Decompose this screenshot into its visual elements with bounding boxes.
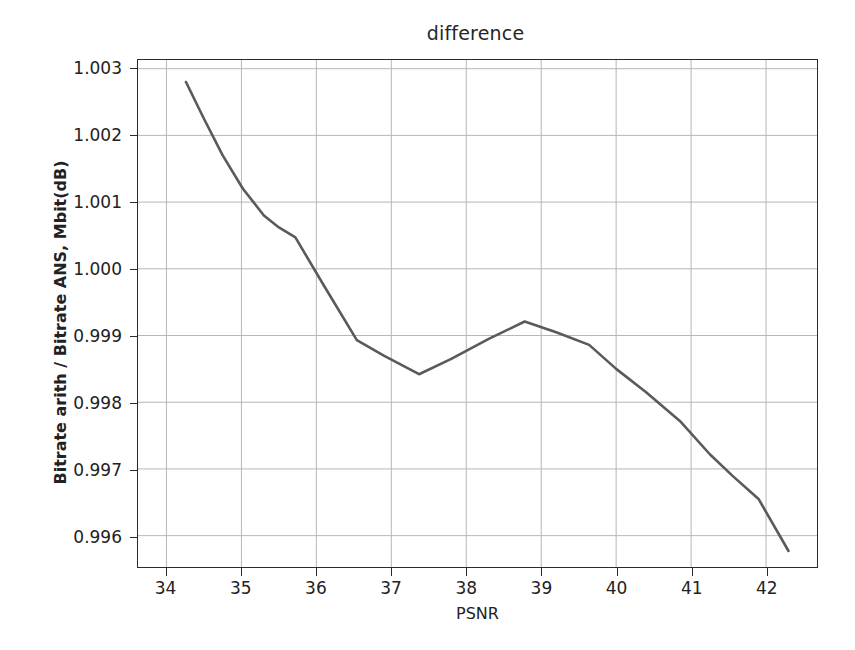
x-tick-mark	[241, 568, 242, 576]
y-tick-label: 0.997	[73, 460, 122, 480]
x-tick-label: 40	[606, 578, 628, 598]
x-tick-mark	[391, 568, 392, 576]
chart-figure: difference 0.9960.9970.9980.9991.0001.00…	[0, 0, 855, 650]
y-tick-label: 0.999	[73, 326, 122, 346]
x-axis-label: PSNR	[137, 604, 818, 623]
y-tick-label: 1.002	[73, 125, 122, 145]
x-tick-label: 42	[756, 578, 778, 598]
x-tick-mark	[692, 568, 693, 576]
y-tick-label: 0.998	[73, 393, 122, 413]
x-tick-mark	[166, 568, 167, 576]
y-tick-label: 1.000	[73, 259, 122, 279]
x-tick-mark	[767, 568, 768, 576]
x-tick-mark	[541, 568, 542, 576]
y-tick-label: 1.001	[73, 192, 122, 212]
x-tick-label: 37	[380, 578, 402, 598]
y-tick-label: 1.003	[73, 58, 122, 78]
data-line	[186, 82, 789, 551]
x-tick-mark	[316, 568, 317, 576]
x-tick-label: 41	[681, 578, 703, 598]
y-axis-label: Bitrate arith / Bitrate ANS, Mbit(dB)	[51, 113, 70, 533]
data-line-series	[138, 60, 817, 567]
x-tick-label: 38	[455, 578, 477, 598]
chart-title-text: difference	[427, 22, 525, 44]
x-tick-label: 39	[531, 578, 553, 598]
x-tick-label: 36	[305, 578, 327, 598]
x-tick-label: 35	[230, 578, 252, 598]
plot-area	[137, 59, 818, 568]
x-tick-label: 34	[155, 578, 177, 598]
y-tick-label: 0.996	[73, 527, 122, 547]
x-tick-mark	[617, 568, 618, 576]
chart-title: difference	[0, 22, 855, 44]
x-tick-mark	[466, 568, 467, 576]
